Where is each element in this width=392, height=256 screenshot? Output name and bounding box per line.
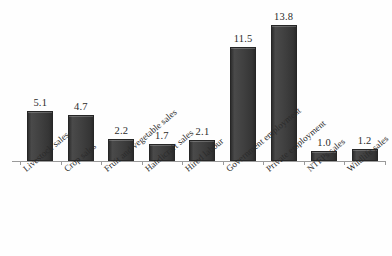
bar-value-label: 5.1 <box>33 97 47 108</box>
bar-chart: 5.14.72.21.72.111.513.81.01.2 Livestock … <box>0 0 392 256</box>
plot-area: 5.14.72.21.72.111.513.81.01.2 <box>20 8 385 161</box>
axis-tick <box>223 161 224 165</box>
axis-tick <box>385 161 386 165</box>
bar-value-label: 2.1 <box>196 126 210 137</box>
axis-tick <box>61 161 62 165</box>
axis-tick <box>142 161 143 165</box>
bar-value-label: 13.8 <box>274 11 293 22</box>
category-labels: Livestock salesCrop salesFruit and veget… <box>20 166 385 256</box>
bar-value-label: 4.7 <box>74 101 88 112</box>
axis-tick <box>304 161 305 165</box>
bar-value-label: 2.2 <box>115 125 129 136</box>
bar-value-label: 11.5 <box>234 33 253 44</box>
